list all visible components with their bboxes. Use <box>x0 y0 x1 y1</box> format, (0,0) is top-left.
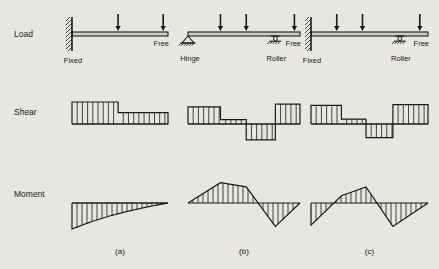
support-label-free: Free <box>154 39 169 48</box>
column-c: FixedRollerFree(c) <box>271 14 429 256</box>
moment-diagram-a <box>72 203 168 229</box>
load-arrow-icon <box>334 14 339 31</box>
arrow-head <box>244 26 249 31</box>
roller-wheel <box>273 37 277 41</box>
shear-diagram-b <box>188 104 300 140</box>
shear-hatch <box>77 102 113 124</box>
load-arrow-icon <box>244 14 249 31</box>
column-a: FixedFree(a) <box>32 14 169 256</box>
beam-member <box>311 32 428 36</box>
arrow-head <box>115 26 120 31</box>
shear-hatch <box>281 104 297 124</box>
load-diagram-a: FixedFree <box>32 14 169 65</box>
shear-hatch <box>347 119 363 124</box>
hinge-support-icon <box>179 36 196 46</box>
figure-canvas: LoadShearMomentFixedFree(a)HingeRollerFr… <box>0 0 439 269</box>
moment-outline <box>72 203 168 229</box>
moment-hatch <box>316 187 426 224</box>
support-label-hinge: Hinge <box>180 54 200 63</box>
shear-hatch <box>251 124 272 140</box>
hinge-triangle <box>182 36 194 43</box>
beam-member <box>188 32 300 36</box>
load-arrow-icon <box>115 14 120 31</box>
hatch-line <box>179 43 181 46</box>
column-b: HingeRollerFree(b) <box>179 14 301 256</box>
arrow-head <box>292 26 297 31</box>
hatch-line <box>32 17 66 51</box>
row-label-shear: Shear <box>14 107 37 117</box>
shear-outline <box>188 104 300 140</box>
hatch-line <box>268 41 270 44</box>
roller-support-icon <box>268 36 282 44</box>
beam-diagram-figure: LoadShearMomentFixedFree(a)HingeRollerFr… <box>0 0 439 269</box>
roller-wheel <box>398 37 402 41</box>
arrow-head <box>218 26 223 31</box>
shear-hatch <box>123 113 165 124</box>
load-arrow-icon <box>417 14 422 31</box>
support-label-fixed: Fixed <box>303 56 321 65</box>
load-arrow-icon <box>161 14 166 31</box>
moment-outline <box>311 187 428 227</box>
roller-support-icon <box>392 36 406 44</box>
shear-hatch <box>226 120 242 124</box>
arrow-head <box>161 26 166 31</box>
shear-diagram-a <box>72 102 168 124</box>
shear-hatch <box>193 107 219 124</box>
arrow-head <box>417 26 422 31</box>
shear-hatch <box>371 124 392 138</box>
moment-diagram-c <box>311 187 428 227</box>
load-diagram-b: HingeRollerFree <box>179 14 301 63</box>
row-label-load: Load <box>14 29 33 39</box>
moment-diagram-b <box>188 183 300 227</box>
support-label-free: Free <box>414 39 429 48</box>
shear-outline <box>72 102 168 124</box>
caption-a: (a) <box>115 247 125 256</box>
shear-diagram-c <box>311 105 428 138</box>
caption-b: (b) <box>239 247 249 256</box>
load-arrow-icon <box>292 14 297 31</box>
hatch-line <box>36 17 70 51</box>
support-label-fixed: Fixed <box>64 56 82 65</box>
row-labels: LoadShearMoment <box>14 29 45 199</box>
arrow-head <box>360 26 365 31</box>
beam-member <box>72 32 168 36</box>
shear-hatch <box>316 105 337 124</box>
support-label-roller: Roller <box>391 54 411 63</box>
load-arrow-icon <box>218 14 223 31</box>
load-arrow-icon <box>360 14 365 31</box>
shear-outline <box>311 105 428 138</box>
hatch-line <box>392 41 394 44</box>
support-label-roller: Roller <box>267 54 287 63</box>
row-label-moment: Moment <box>14 189 45 199</box>
caption-c: (c) <box>365 247 375 256</box>
support-label-free: Free <box>286 39 301 48</box>
arrow-head <box>334 26 339 31</box>
shear-hatch <box>398 105 424 124</box>
